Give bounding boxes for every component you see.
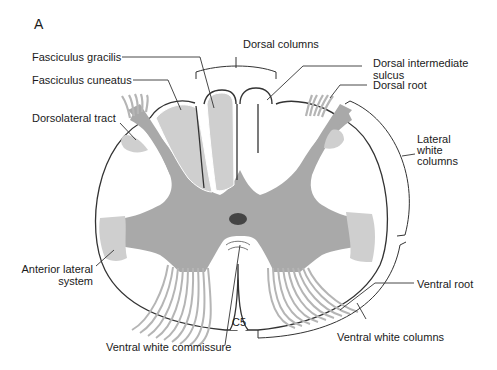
label-fasciculus-cuneatus: Fasciculus cuneatus	[32, 74, 132, 86]
panel-letter: A	[34, 16, 43, 32]
leader-dorsal-intermediate-sulcus	[267, 66, 362, 100]
ventral-white-commissure-arcs	[226, 241, 250, 250]
label-dorsolateral-tract: Dorsolateral tract	[32, 112, 116, 124]
anterior-lateral-system-right	[346, 212, 375, 262]
central-canal	[229, 213, 247, 225]
label-ventral-white-commissure: Ventral white commissure	[106, 341, 231, 353]
label-lateral-white-columns-line3: columns	[417, 155, 458, 167]
ventral-rootlets-right	[268, 268, 358, 328]
label-segment-c5: C5	[232, 316, 246, 328]
label-dorsal-intermediate-sulcus-line1: Dorsal intermediate	[373, 57, 468, 69]
spinal-cord-cross-section-diagram: A Fasciculus gracilis Fasciculus cuneatu…	[0, 0, 497, 370]
anterior-lateral-system-left	[99, 216, 127, 261]
label-anterior-lateral-system-line1: Anterior lateral	[20, 263, 93, 275]
leader-dorsal-root	[330, 85, 367, 98]
leader-ventral-root	[340, 283, 414, 310]
leader-ventral-white-columns	[357, 303, 366, 319]
leader-fasciculus-gracilis	[122, 57, 214, 108]
dorsolateral-tract-left	[121, 135, 148, 152]
leader-lateral-white-columns	[402, 154, 415, 156]
label-ventral-root: Ventral root	[417, 278, 473, 290]
bracket-dorsal-columns	[196, 57, 276, 79]
label-fasciculus-gracilis: Fasciculus gracilis	[32, 51, 121, 63]
fasciculus-gracilis-region	[207, 93, 234, 191]
ventral-rootlets-left	[132, 265, 211, 346]
label-dorsal-root: Dorsal root	[373, 79, 427, 91]
label-anterior-lateral-system-line2: system	[20, 275, 93, 287]
label-dorsal-columns: Dorsal columns	[243, 38, 319, 50]
label-ventral-white-columns: Ventral white columns	[337, 331, 444, 343]
